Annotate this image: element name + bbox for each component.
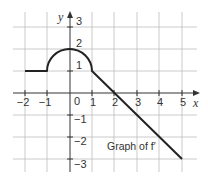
y-axis-arrow-icon	[67, 11, 73, 18]
svg-text:−1: −1	[39, 96, 52, 108]
svg-text:3: 3	[135, 96, 141, 108]
svg-text:−3: −3	[74, 158, 87, 170]
chart-canvas: y x 3 2 1 −1 −2 −3 −2 −1 0 1 2 3 4 5 Gra…	[0, 0, 208, 178]
svg-text:1: 1	[90, 96, 96, 108]
svg-text:2: 2	[76, 37, 82, 49]
x-tick-labels: −2 −1 0 1 2 3 4 5	[17, 95, 186, 108]
svg-text:−2: −2	[17, 96, 30, 108]
y-axis-label: y	[57, 10, 64, 24]
svg-text:2: 2	[112, 96, 118, 108]
svg-text:5: 5	[180, 96, 186, 108]
svg-text:0: 0	[74, 95, 80, 107]
svg-text:−2: −2	[74, 135, 87, 147]
axes	[13, 16, 196, 172]
svg-text:−1: −1	[74, 113, 87, 125]
svg-text:4: 4	[157, 96, 163, 108]
svg-text:3: 3	[76, 15, 82, 27]
graph-caption: Graph of f′	[107, 140, 156, 152]
x-axis-label: x	[192, 96, 199, 110]
svg-text:1: 1	[76, 59, 82, 71]
